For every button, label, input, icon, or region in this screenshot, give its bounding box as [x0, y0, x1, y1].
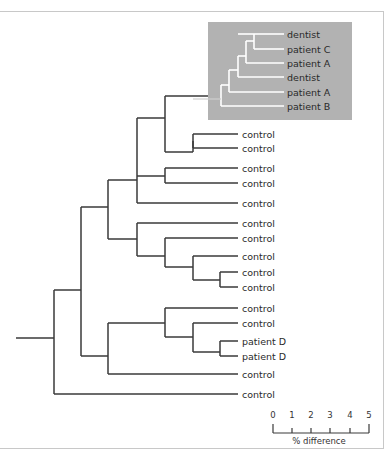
scale-tick-label: 0 [270, 410, 275, 420]
main-leaf-labels: control control control control control … [242, 129, 286, 400]
inset-leaf-label: dentist [287, 29, 320, 40]
leaf-label: control [242, 233, 275, 244]
scale-bar-label: % difference [292, 436, 345, 446]
leaf-label: patient D [242, 336, 286, 347]
leaf-label: control [242, 389, 275, 400]
leaf-label: control [242, 251, 275, 262]
scale-tick-label: 3 [327, 410, 332, 420]
inset-leaf-label: patient A [287, 87, 331, 98]
scale-bar: 0 1 2 3 4 5 % difference [270, 410, 371, 446]
leaf-label: control [242, 178, 275, 189]
scale-tick-label: 1 [289, 410, 294, 420]
scale-tick-label: 5 [366, 410, 371, 420]
phylogenetic-tree: dentist patient C patient A dentist pati… [0, 0, 390, 455]
leaf-label: control [242, 369, 275, 380]
leaf-label: control [242, 282, 275, 293]
leaf-label: control [242, 129, 275, 140]
inset-leaf-label: patient B [287, 101, 330, 112]
inset-leaf-label: patient C [287, 44, 331, 55]
scale-tick-label: 4 [347, 410, 352, 420]
leaf-label: control [242, 198, 275, 209]
leaf-label: control [242, 218, 275, 229]
main-branches [16, 96, 238, 394]
leaf-label: patient D [242, 351, 286, 362]
leaf-label: control [242, 143, 275, 154]
leaf-label: control [242, 318, 275, 329]
leaf-label: control [242, 267, 275, 278]
inset-leaf-label: dentist [287, 72, 320, 83]
leaf-label: control [242, 303, 275, 314]
leaf-label: control [242, 163, 275, 174]
scale-tick-label: 2 [308, 410, 313, 420]
inset-leaf-label: patient A [287, 58, 331, 69]
